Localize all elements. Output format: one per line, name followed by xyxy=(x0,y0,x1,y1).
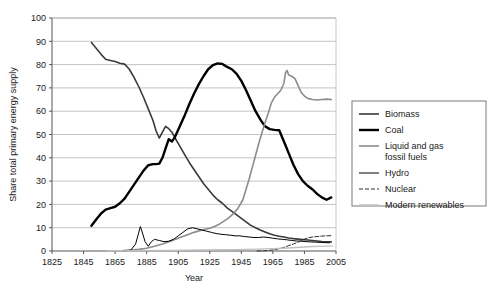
legend: BiomassCoalLiquid and gasfossil fuelsHyd… xyxy=(352,101,486,210)
chart-figure: 0102030405060708090100 18251845186518851… xyxy=(0,0,490,289)
y-tick-label: 0 xyxy=(41,246,46,256)
y-tick-label: 90 xyxy=(36,37,46,47)
legend-label: Modern renewables xyxy=(385,200,465,210)
series-line-biomass xyxy=(91,42,331,241)
legend-label: Biomass xyxy=(385,109,420,119)
series-group xyxy=(91,42,332,251)
y-tick-label: 70 xyxy=(36,83,46,93)
legend-label: Liquid and gas xyxy=(385,141,444,151)
x-tick-label: 1885 xyxy=(137,257,157,267)
x-tick-label: 1925 xyxy=(200,257,220,267)
y-tick-label: 80 xyxy=(36,60,46,70)
legend-label: Hydro xyxy=(385,168,409,178)
y-axis-title: Share total primary energy supply xyxy=(8,67,18,202)
y-tick-label: 40 xyxy=(36,153,46,163)
y-tick-label: 100 xyxy=(31,13,46,23)
x-tick-label: 1985 xyxy=(294,257,314,267)
y-tick-labels-group: 0102030405060708090100 xyxy=(31,13,52,256)
x-tick-label: 1965 xyxy=(263,257,283,267)
x-tick-label: 1825 xyxy=(42,257,62,267)
series-line-liquid-and-gas-fossil-fuels xyxy=(123,70,331,250)
x-tick-label: 2005 xyxy=(326,257,346,267)
legend-label-continued: fossil fuels xyxy=(385,152,428,162)
gridlines-group xyxy=(52,18,336,228)
chart-canvas: 0102030405060708090100 18251845186518851… xyxy=(0,0,490,289)
y-tick-label: 50 xyxy=(36,130,46,140)
y-tick-label: 10 xyxy=(36,223,46,233)
y-tick-label: 20 xyxy=(36,200,46,210)
legend-label: Coal xyxy=(385,125,404,135)
x-tick-label: 1945 xyxy=(231,257,251,267)
x-tick-labels-group: 1825184518651885190519251945196519852005 xyxy=(42,251,346,267)
y-tick-label: 60 xyxy=(36,106,46,116)
legend-label: Nuclear xyxy=(385,184,416,194)
x-axis-title: Year xyxy=(185,273,203,283)
y-tick-label: 30 xyxy=(36,176,46,186)
x-tick-label: 1845 xyxy=(74,257,94,267)
x-tick-label: 1905 xyxy=(168,257,188,267)
x-tick-label: 1865 xyxy=(105,257,125,267)
